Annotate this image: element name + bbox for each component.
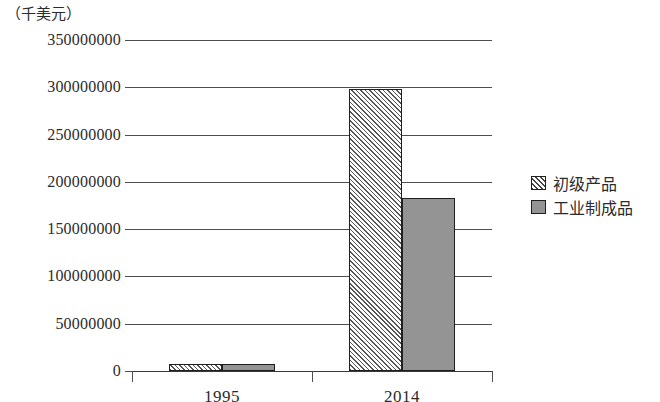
x-axis-tick — [492, 371, 493, 382]
legend-label-primary-products: 初级产品 — [553, 171, 617, 195]
bar — [402, 198, 455, 371]
legend: 初级产品 工业制成品 — [531, 171, 657, 219]
bar-chart: （千美元） 0500000001000000001500000002000000… — [0, 0, 660, 402]
gridline — [132, 182, 492, 183]
legend-item-manufactured-goods: 工业制成品 — [531, 195, 657, 219]
bar — [222, 364, 275, 371]
y-axis-tick — [125, 229, 132, 230]
y-axis-tick-label: 50000000 — [55, 315, 121, 333]
y-axis-tick — [125, 276, 132, 277]
y-axis-tick-label: 100000000 — [47, 267, 121, 285]
y-axis-tick — [125, 40, 132, 41]
y-axis-tick-label: 150000000 — [47, 220, 121, 238]
x-axis-tick — [312, 371, 313, 382]
y-axis-tick-label: 200000000 — [47, 173, 121, 191]
y-axis-tick-label: 0 — [113, 362, 121, 380]
y-axis-tick — [125, 324, 132, 325]
gridline — [132, 135, 492, 136]
y-axis-tick — [125, 87, 132, 88]
y-axis-unit-label: （千美元） — [6, 2, 81, 23]
y-axis-tick — [125, 135, 132, 136]
gridline — [132, 40, 492, 41]
legend-swatch-solid-icon — [531, 200, 546, 214]
legend-swatch-hatched-icon — [531, 176, 546, 190]
y-axis-tick — [125, 182, 132, 183]
y-axis-tick-label: 350000000 — [47, 31, 121, 49]
y-axis-tick — [125, 371, 132, 372]
y-axis-tick-label: 300000000 — [47, 78, 121, 96]
plot-area: 0500000001000000001500000002000000002500… — [132, 40, 492, 371]
legend-label-manufactured-goods: 工业制成品 — [553, 195, 633, 219]
bar — [349, 89, 402, 371]
y-axis-tick-label: 250000000 — [47, 126, 121, 144]
legend-item-primary-products: 初级产品 — [531, 171, 657, 195]
x-axis-category-label: 2014 — [384, 387, 420, 402]
gridline — [132, 87, 492, 88]
bar — [169, 364, 222, 371]
x-axis-tick — [132, 371, 133, 382]
x-axis-category-label: 1995 — [204, 387, 240, 402]
